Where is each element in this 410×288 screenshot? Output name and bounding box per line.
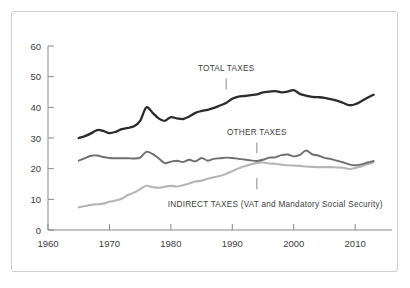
y-tick-label: 40 xyxy=(30,102,41,113)
x-tick-label: 1970 xyxy=(99,238,120,249)
x-tick-label: 1990 xyxy=(222,238,243,249)
annotation-label: INDIRECT TAXES (VAT and Mandatory Social… xyxy=(168,200,383,209)
y-tick-label: 10 xyxy=(30,194,41,205)
y-tick-label: 30 xyxy=(30,133,41,144)
annotation-label: TOTAL TAXES xyxy=(198,64,255,73)
y-tick-label: 60 xyxy=(30,41,41,52)
line-chart-canvas: 0102030405060 196019701980199020002010 T… xyxy=(0,0,410,288)
x-tick-label: 1960 xyxy=(37,238,58,249)
x-axis-ticks xyxy=(48,224,355,230)
x-tick-label: 2000 xyxy=(283,238,304,249)
annotation-label: OTHER TAXES xyxy=(227,128,287,137)
series-line-other xyxy=(79,151,374,166)
series-lines xyxy=(79,90,374,207)
y-tick-label: 20 xyxy=(30,163,41,174)
y-axis-ticks xyxy=(48,46,54,230)
x-tick-label: 2010 xyxy=(345,238,366,249)
y-tick-label: 0 xyxy=(36,225,41,236)
y-axis-tick-labels: 0102030405060 xyxy=(30,41,41,236)
x-axis-tick-labels: 196019701980199020002010 xyxy=(37,238,365,249)
chart-figure: 0102030405060 196019701980199020002010 T… xyxy=(0,0,410,288)
y-tick-label: 50 xyxy=(30,71,41,82)
x-tick-label: 1980 xyxy=(160,238,181,249)
annotation-labels: TOTAL TAXESOTHER TAXESINDIRECT TAXES (VA… xyxy=(168,64,383,209)
